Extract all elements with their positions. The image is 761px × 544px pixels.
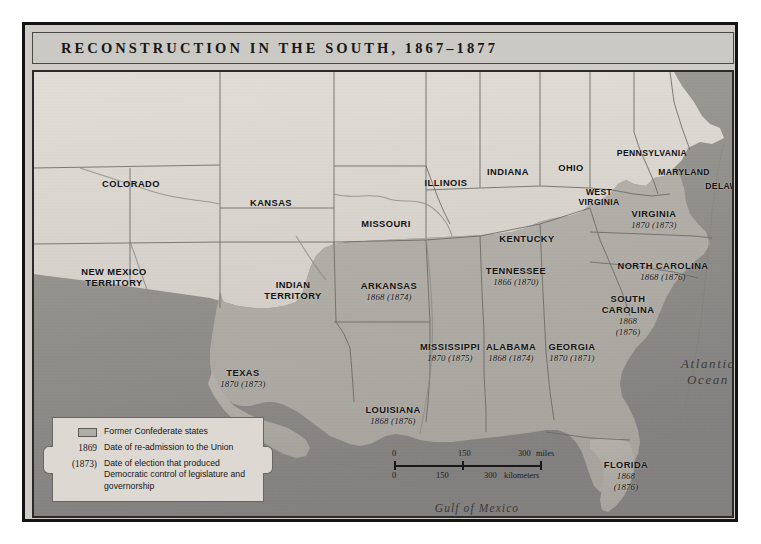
page-title: RECONSTRUCTION IN THE SOUTH, 1867–1877 [61,40,498,57]
north-carolina-name: NORTH CAROLINA [618,261,709,271]
state-label-louisiana: LOUISIANA 1868 (1876) [365,405,420,427]
state-label-indian-territory: INDIAN TERRITORY [264,280,321,302]
gulf-line-1: Gulf of Mexico [435,501,519,515]
state-label-kansas: KANSAS [250,198,292,209]
texas-name: TEXAS [226,368,259,378]
scalebar-miles-labels: 0 150 300 miles [392,449,544,460]
alabama-years: 1868 (1874) [486,354,536,364]
louisiana-name: LOUISIANA [365,405,420,415]
virginia-name: VIRGINIA [632,209,677,219]
colorado-name: COLORADO [102,179,160,189]
ohio-name: OHIO [558,163,584,173]
scalebar-km-labels: 0 150 300 kilometers [392,471,544,482]
legend-key-swatch [62,426,104,438]
missouri-name: MISSOURI [361,219,411,229]
virginia-years: 1870 (1873) [631,221,676,231]
state-label-alabama: ALABAMA 1868 (1874) [486,342,536,364]
louisiana-years: 1868 (1876) [365,417,420,427]
state-label-georgia: GEORGIA 1870 (1871) [548,342,595,364]
scalebar-bar [394,465,542,467]
state-label-new-mexico-territory: NEW MEXICO TERRITORY [81,267,146,289]
state-label-west-virginia: WEST VIRGINIA [579,187,620,207]
map-legend: Former Confederate states 1869 Date of r… [52,417,264,502]
label-atlantic-ocean: Atlantic Ocean [681,356,734,389]
mississippi-name: MISSISSIPPI [420,342,480,352]
atlantic-line-2: Ocean [681,372,734,388]
title-bar: RECONSTRUCTION IN THE SOUTH, 1867–1877 [32,32,734,64]
florida-name: FLORIDA [604,460,648,470]
florida-year-1: 1868 [604,471,648,481]
state-label-mississippi: MISSISSIPPI 1870 (1875) [420,342,480,364]
georgia-years: 1870 (1871) [548,354,595,364]
state-label-pennsylvania: PENNSYLVANIA [617,148,687,158]
state-label-arkansas: ARKANSAS 1868 (1874) [361,281,417,303]
legend-key-readmission: 1869 [62,442,104,454]
legend-row-democratic-control: (1873) Date of election that produced De… [62,458,254,492]
new-mexico-name-1: NEW MEXICO [81,267,146,277]
west-virginia-name-1: WEST [586,187,612,197]
georgia-name: GEORGIA [548,342,595,352]
state-label-kentucky: KENTUCKY [499,234,554,245]
state-label-virginia: VIRGINIA 1870 (1873) [631,209,676,231]
map-page: RECONSTRUCTION IN THE SOUTH, 1867–1877 [0,0,761,544]
legend-desc-confederate: Former Confederate states [104,426,254,437]
legend-desc-democratic-control: Date of election that produced Democrati… [104,458,254,492]
state-label-illinois: ILLINOIS [425,178,468,189]
new-mexico-name-2: TERRITORY [85,278,142,288]
west-virginia-name-2: VIRGINIA [579,197,620,207]
km-tick-150: 150 [436,471,449,480]
km-unit: kilometers [504,471,539,480]
km-tick-0: 0 [392,471,396,480]
legend-row-confederate: Former Confederate states [62,426,254,438]
delaware-name: DELAWARE [705,181,734,191]
miles-unit: miles [536,449,554,458]
state-label-texas: TEXAS 1870 (1873) [220,368,265,390]
state-label-tennessee: TENNESSEE 1866 (1870) [486,266,546,288]
miles-tick-300: 300 [518,449,531,458]
kansas-name: KANSAS [250,198,292,208]
miles-tick-0: 0 [392,449,396,458]
alabama-name: ALABAMA [486,342,536,352]
florida-year-2: (1876) [604,482,648,492]
state-label-north-carolina: NORTH CAROLINA 1868 (1876) [618,261,709,283]
texas-years: 1870 (1873) [220,380,265,390]
tennessee-years: 1866 (1870) [486,278,546,288]
kentucky-name: KENTUCKY [499,234,554,244]
scalebar-tick-start [394,461,396,470]
state-label-indiana: INDIANA [487,167,529,178]
north-carolina-years: 1868 (1876) [618,273,709,283]
map-frame: RECONSTRUCTION IN THE SOUTH, 1867–1877 [22,22,738,522]
mississippi-years: 1870 (1875) [420,354,480,364]
legend-row-readmission: 1869 Date of re-admission to the Union [62,442,254,454]
km-tick-300: 300 [484,471,497,480]
tennessee-name: TENNESSEE [486,266,546,276]
legend-key-democratic-control: (1873) [62,458,104,470]
state-label-south-carolina: SOUTH CAROLINA 1868 (1876) [602,294,655,338]
south-carolina-year-1: 1868 [602,317,655,327]
south-carolina-year-2: (1876) [602,327,655,337]
scalebar-rule [392,461,544,470]
miles-tick-150: 150 [458,449,471,458]
state-label-delaware: DELAWARE [705,181,734,191]
state-label-colorado: COLORADO [102,179,160,190]
maryland-name: MARYLAND [658,167,710,177]
arkansas-years: 1868 (1874) [361,293,417,303]
indiana-name: INDIANA [487,167,529,177]
scalebar-tick-mid [462,461,464,470]
state-label-maryland: MARYLAND [658,167,710,177]
scalebar-tick-end [540,461,542,470]
south-carolina-name-2: CAROLINA [602,305,655,315]
state-label-missouri: MISSOURI [361,219,411,230]
south-carolina-name-1: SOUTH [611,294,646,304]
pennsylvania-name: PENNSYLVANIA [617,148,687,158]
state-label-florida: FLORIDA 1868 (1876) [604,460,648,493]
indian-territory-name-1: INDIAN [276,280,311,290]
indian-territory-name-2: TERRITORY [264,291,321,301]
arkansas-name: ARKANSAS [361,281,417,291]
map-canvas[interactable]: Atlantic Ocean Gulf of Mexico VIRGINIA 1… [32,70,734,518]
atlantic-line-1: Atlantic [681,356,734,372]
legend-desc-readmission: Date of re-admission to the Union [104,442,254,453]
illinois-name: ILLINOIS [425,178,468,188]
state-label-ohio: OHIO [558,163,584,174]
confederate-swatch-icon [78,428,97,437]
